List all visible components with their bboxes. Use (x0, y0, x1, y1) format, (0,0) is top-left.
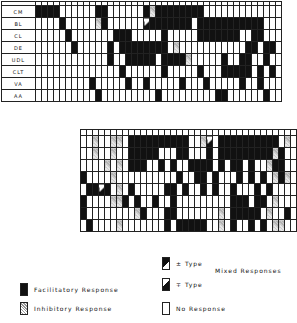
grid-cell (276, 42, 282, 54)
grid-cell (276, 90, 282, 102)
grid-row (81, 160, 297, 172)
grid-cell (291, 184, 297, 196)
grid-row: AA (2, 90, 282, 102)
row-label: AA (2, 90, 36, 102)
inhibitory-swatch (20, 302, 28, 315)
row-label: CLT (2, 66, 36, 78)
grid-row: UDL (2, 54, 282, 66)
grid-cell (276, 30, 282, 42)
grid-row: DE (2, 42, 282, 54)
row-label: VA (2, 78, 36, 90)
grid-cell (291, 148, 297, 160)
grid-cell (291, 172, 297, 184)
grid-cell (276, 66, 282, 78)
row-label: CM (2, 6, 36, 18)
row-label: UDL (2, 54, 36, 66)
grid-row (81, 220, 297, 232)
upper-grid: CMBLCLDEUDLCLTVAAA (1, 1, 282, 102)
legend-none: No Response (162, 302, 226, 315)
grid-cell (276, 78, 282, 90)
grid-row (81, 136, 297, 148)
grid-row (81, 172, 297, 184)
grid-row: CM (2, 6, 282, 18)
grid-row (81, 148, 297, 160)
grid-row: CLT (2, 66, 282, 78)
grid-row (81, 184, 297, 196)
row-label: DE (2, 42, 36, 54)
mp-swatch (162, 278, 170, 291)
grid-row (81, 208, 297, 220)
grid-row: VA (2, 78, 282, 90)
grid-row: CL (2, 30, 282, 42)
legend-inhibitory: Inhibitory Response (20, 302, 112, 315)
grid-cell (291, 196, 297, 208)
facilitatory-swatch (20, 283, 28, 296)
legend-facilitatory: Facilitatory Response (20, 283, 119, 296)
none-swatch (162, 302, 170, 315)
row-label: BL (2, 18, 36, 30)
grid-cell (276, 54, 282, 66)
legend-mp: ∓ Type (162, 278, 203, 291)
grid-cell (291, 220, 297, 232)
grid-cell (291, 136, 297, 148)
grid-cell (276, 18, 282, 30)
grid-row (81, 196, 297, 208)
pm-swatch (162, 257, 170, 270)
mixed-responses-label: Mixed Responses (215, 267, 282, 274)
grid-cell (276, 6, 282, 18)
lower-grid (80, 129, 297, 232)
grid-row: BL (2, 18, 282, 30)
grid-cell (291, 160, 297, 172)
legend-pm: ± Type (162, 257, 203, 270)
grid-cell (291, 208, 297, 220)
row-label: CL (2, 30, 36, 42)
